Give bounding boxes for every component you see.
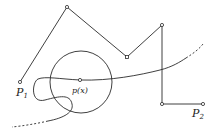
vertex-valley — [126, 56, 129, 59]
vertex-p2 — [201, 102, 204, 105]
center-point — [78, 78, 81, 81]
vertex-corner — [160, 102, 163, 105]
label-p2: P2 — [191, 107, 204, 121]
label-p1: P1 — [15, 86, 28, 100]
label-px: p(x) — [72, 86, 88, 95]
neighborhood-circle — [50, 51, 112, 113]
dashed-curve-right — [186, 44, 203, 58]
vertex-markers — [18, 5, 204, 105]
path-diagram: P1 P2 p(x) — [0, 0, 218, 134]
vertex-peak-right — [160, 23, 163, 26]
solid-curve — [34, 58, 186, 104]
vertex-p1 — [18, 80, 21, 83]
vertex-top — [65, 5, 68, 8]
dashed-curve-left — [12, 121, 48, 127]
solid-curve-lower — [48, 104, 72, 121]
